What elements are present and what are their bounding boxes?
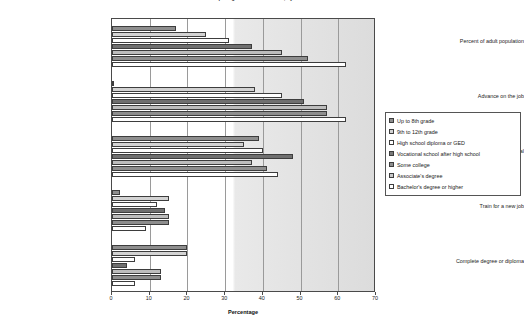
bar — [112, 87, 255, 92]
bar — [112, 269, 161, 274]
bar — [112, 136, 259, 141]
bar — [112, 44, 252, 49]
legend-swatch-icon — [389, 184, 394, 189]
bar — [112, 111, 327, 116]
y-axis-label: Percent of adult population — [416, 38, 524, 45]
bar — [112, 26, 176, 31]
legend-label: Up to 8th grade — [397, 118, 434, 124]
bar — [112, 56, 308, 61]
legend-label: High school diploma or GED — [397, 140, 465, 146]
bar — [112, 281, 135, 286]
legend-item[interactable]: Up to 8th grade — [388, 115, 518, 126]
legend-swatch-icon — [389, 118, 394, 123]
y-axis-label: Train for a new job — [416, 203, 524, 210]
x-tick-label: 40 — [250, 295, 274, 301]
bar — [112, 166, 267, 171]
legend-label: Bachelor's degree or higher — [397, 184, 463, 190]
x-tick-label: 60 — [325, 295, 349, 301]
bar — [112, 202, 157, 207]
legend-item[interactable]: 9th to 12th grade — [388, 126, 518, 137]
bar — [112, 32, 206, 37]
bar — [112, 263, 127, 268]
x-tick-label: 20 — [174, 295, 198, 301]
legend-item[interactable]: Bachelor's degree or higher — [388, 181, 518, 192]
chart-title: Reasons for Participating in Adult Educa… — [0, 0, 524, 1]
bar — [112, 275, 161, 280]
x-tick-label: 0 — [99, 295, 123, 301]
bar — [112, 38, 229, 43]
bar — [112, 160, 252, 165]
bar — [112, 220, 169, 225]
legend-swatch-icon — [389, 162, 394, 167]
bar — [112, 142, 244, 147]
legend-label: Associate's degree — [397, 173, 442, 179]
bar — [112, 172, 278, 177]
bar — [112, 105, 327, 110]
legend-item[interactable]: Vocational school after high school — [388, 148, 518, 159]
x-tick-label: 30 — [212, 295, 236, 301]
bar — [112, 190, 120, 195]
bar — [112, 93, 282, 98]
bar — [112, 62, 346, 67]
bar-group — [112, 245, 374, 286]
bar — [112, 226, 146, 231]
legend-swatch-icon — [389, 173, 394, 178]
bar — [112, 208, 165, 213]
legend: Up to 8th grade9th to 12th gradeHigh sch… — [385, 112, 521, 196]
bar-group — [112, 190, 374, 231]
x-tick-label: 70 — [363, 295, 387, 301]
bar-group — [112, 136, 374, 177]
bar — [112, 99, 304, 104]
x-tick-label: 50 — [288, 295, 312, 301]
legend-swatch-icon — [389, 151, 394, 156]
bar — [112, 148, 263, 153]
legend-label: 9th to 12th grade — [397, 129, 438, 135]
bar — [112, 214, 169, 219]
bar-group — [112, 81, 374, 122]
legend-item[interactable]: Associate's degree — [388, 170, 518, 181]
x-axis-title: Percentage — [111, 309, 375, 315]
y-axis-label: Advance on the job — [416, 93, 524, 100]
legend-swatch-icon — [389, 140, 394, 145]
bar — [112, 257, 135, 262]
bar — [112, 81, 114, 86]
x-tick-label: 10 — [137, 295, 161, 301]
bar — [112, 50, 282, 55]
legend-item[interactable]: High school diploma or GED — [388, 137, 518, 148]
legend-item[interactable]: Some college — [388, 159, 518, 170]
plot-area — [111, 18, 375, 292]
bar — [112, 245, 187, 250]
y-axis-label: Complete degree or diploma — [416, 258, 524, 265]
bar — [112, 251, 187, 256]
legend-swatch-icon — [389, 129, 394, 134]
legend-label: Vocational school after high school — [397, 151, 480, 157]
legend-label: Some college — [397, 162, 430, 168]
bar — [112, 196, 169, 201]
chart-figure: Reasons for Participating in Adult Educa… — [0, 0, 524, 334]
bar — [112, 154, 293, 159]
bar — [112, 117, 346, 122]
bar-group — [112, 26, 374, 67]
